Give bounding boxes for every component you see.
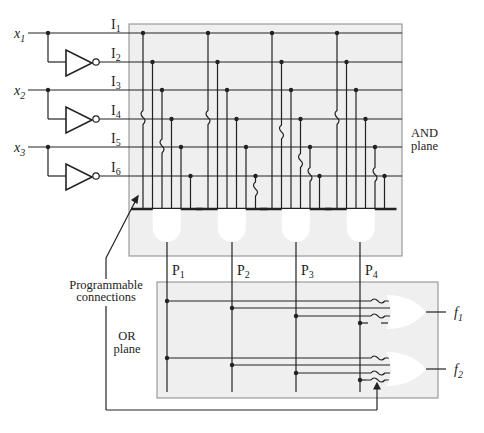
pla-diagram: x1 x2 x3 I1 I2 I3 I4 I5 I6 P1 P2 P3 P4 f… (0, 0, 484, 433)
inversion-bubble (93, 173, 99, 179)
not-gate-icon (66, 164, 92, 190)
line-i5-label: I5 (111, 131, 121, 148)
programmable-label-2: connections (76, 290, 136, 304)
junction-dot (270, 31, 274, 35)
not-gate-icon (66, 50, 92, 76)
and-plane-label-1: AND (411, 126, 438, 140)
output-f2-label: f2 (454, 362, 463, 380)
junction-dot (230, 363, 234, 367)
junction-dot (358, 378, 362, 382)
and-gate-icon (218, 209, 246, 242)
and-gate-icon (282, 209, 310, 242)
product-p3-label: P3 (301, 263, 314, 280)
junction-dot (294, 371, 298, 375)
inversion-bubble (93, 116, 99, 122)
line-i6-label: I6 (111, 160, 121, 177)
junction-dot (188, 174, 192, 178)
junction-dot (206, 31, 210, 35)
line-i3-label: I3 (111, 74, 121, 91)
junction-dot (344, 60, 348, 64)
input-x3-label: x3 (13, 140, 25, 158)
or-plane-label-2: plane (113, 342, 141, 356)
input-x2-label: x2 (13, 83, 25, 101)
junction-dot (169, 117, 173, 121)
and-plane-label-2: plane (411, 139, 439, 153)
inversion-bubble (93, 59, 99, 65)
junction-dot (354, 88, 358, 92)
product-p4-label: P4 (365, 263, 378, 280)
junction-dot (230, 306, 234, 310)
junction-dot (141, 31, 145, 35)
junction-dot (289, 88, 293, 92)
product-p2-label: P2 (237, 263, 250, 280)
not-gate-icon (66, 107, 92, 133)
output-f1-label: f1 (454, 305, 463, 323)
or-plane-label-1: OR (118, 329, 136, 343)
junction-dot (160, 88, 164, 92)
product-p1-label: P1 (172, 263, 185, 280)
junction-dot (363, 117, 367, 121)
junction-dot (335, 31, 339, 35)
junction-dot (46, 145, 50, 149)
junction-dot (225, 88, 229, 92)
line-i1-label: I1 (111, 17, 121, 34)
and-gate-icon (347, 209, 375, 242)
junction-dot (308, 145, 312, 149)
junction-dot (244, 145, 248, 149)
junction-dot (165, 299, 169, 303)
input-x1-label: x1 (13, 26, 25, 44)
junction-dot (373, 145, 377, 149)
junction-dot (358, 321, 362, 325)
junction-dot (150, 60, 154, 64)
line-i4-label: I4 (111, 103, 121, 120)
junction-dot (46, 88, 50, 92)
junction-dot (298, 117, 302, 121)
junction-dot (46, 31, 50, 35)
and-gate-icon (153, 209, 181, 242)
junction-dot (234, 117, 238, 121)
junction-dot (317, 174, 321, 178)
junction-dot (165, 356, 169, 360)
junction-dot (215, 60, 219, 64)
junction-dot (382, 174, 386, 178)
line-i2-label: I2 (111, 46, 121, 63)
junction-dot (294, 314, 298, 318)
junction-dot (179, 145, 183, 149)
junction-dot (279, 60, 283, 64)
junction-dot (253, 174, 257, 178)
